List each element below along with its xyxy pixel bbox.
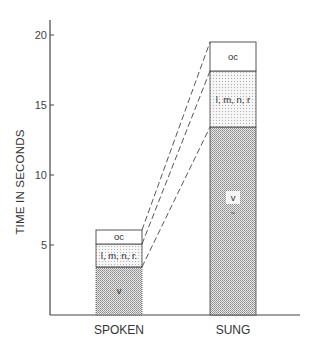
bar-spoken: oc l, m, n, r. v xyxy=(96,230,142,315)
label-sung-v: v xyxy=(231,192,236,203)
connector-oc-top xyxy=(142,42,210,230)
connector-lmnr-top xyxy=(142,71,210,244)
label-sung-lmnr: l, m, n, r xyxy=(216,94,250,105)
y-axis: 5 10 15 20 TIME IN SECONDS xyxy=(14,20,54,315)
y-tick-10: 10 xyxy=(35,169,47,181)
stacked-bar-chart: 5 10 15 20 TIME IN SECONDS oc l, m, n, r… xyxy=(0,0,315,351)
segment-sung-v xyxy=(210,127,256,315)
label-spoken-oc: oc xyxy=(114,231,124,242)
y-tick-15: 15 xyxy=(35,99,47,111)
label-spoken-v: v xyxy=(117,285,122,296)
y-tick-5: 5 xyxy=(41,239,47,251)
dashed-connectors xyxy=(142,42,210,267)
x-label-sung: SUNG xyxy=(216,323,251,337)
y-axis-title: TIME IN SECONDS xyxy=(14,129,26,234)
bar-sung: oc l, m, n, r v xyxy=(210,42,256,315)
y-tick-20: 20 xyxy=(35,29,47,41)
label-sung-oc: oc xyxy=(228,51,238,62)
x-label-spoken: SPOKEN xyxy=(94,323,144,337)
connector-v-top xyxy=(142,127,210,267)
label-spoken-lmnr: l, m, n, r. xyxy=(101,250,137,261)
